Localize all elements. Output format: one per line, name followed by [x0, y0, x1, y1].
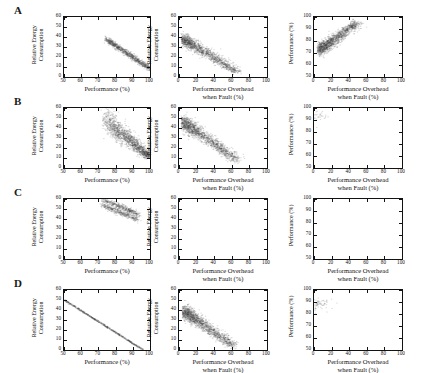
- y-tick-label: 10: [165, 63, 176, 68]
- y-tick-label: 20: [50, 53, 61, 58]
- y-tick-label: 60: [165, 104, 176, 109]
- y-axis-title-line: Relative Energy: [31, 196, 38, 258]
- x-tick-mark: [214, 108, 215, 111]
- y-tick-label: 10: [50, 245, 61, 250]
- x-tick-label: 40: [211, 169, 216, 174]
- y-tick-mark: [314, 108, 317, 109]
- y-tick-label: 40: [165, 215, 176, 220]
- y-tick-mark: [399, 29, 402, 30]
- y-tick-mark: [314, 247, 317, 248]
- x-tick-label: 60: [228, 351, 233, 356]
- y-tick-mark: [314, 338, 317, 339]
- x-tick-label: 70: [95, 351, 100, 356]
- x-tick-label: 60: [228, 169, 233, 174]
- y-tick-mark: [179, 310, 182, 311]
- x-tick-label: 20: [193, 260, 198, 265]
- y-tick-label: 50: [300, 346, 311, 351]
- y-tick-label: 90: [300, 298, 311, 303]
- y-axis-title: Relative EnergyConsumption: [31, 287, 45, 349]
- plot-panel-c2: 0204060801000102030405060Performance Ove…: [178, 198, 268, 260]
- y-tick-mark: [314, 41, 317, 42]
- row-label: D: [14, 277, 22, 289]
- y-axis-title-line: Performance (%): [288, 286, 295, 346]
- x-tick-label: 100: [262, 260, 270, 265]
- y-tick-mark: [64, 138, 67, 139]
- y-tick-mark: [64, 148, 67, 149]
- y-axis-title: Relative EnergyConsumption: [31, 105, 45, 167]
- y-tick-mark: [64, 239, 67, 240]
- y-tick-mark: [64, 67, 67, 68]
- y-tick-label: 60: [300, 243, 311, 248]
- y-tick-label: 60: [165, 195, 176, 200]
- plot-panel-a3: 0204060801005060708090100Performance Ove…: [313, 16, 403, 78]
- x-axis-title: Performance Overheadwhen Fault (%): [178, 358, 268, 373]
- y-tick-label: 60: [165, 13, 176, 18]
- scatter-points: [179, 17, 267, 77]
- x-tick-label: 100: [145, 78, 153, 83]
- x-tick-mark: [332, 108, 333, 111]
- x-axis-title: Performance (%): [63, 176, 151, 184]
- scatter-points: [64, 108, 150, 168]
- y-tick-mark: [399, 53, 402, 54]
- y-tick-mark: [264, 67, 267, 68]
- x-tick-mark: [349, 108, 350, 111]
- x-tick-mark: [402, 17, 403, 20]
- x-tick-mark: [116, 108, 117, 111]
- y-tick-mark: [314, 144, 317, 145]
- y-axis-title: Relative EnergyConsumption: [146, 287, 160, 349]
- y-axis-title-line: Consumption: [38, 14, 45, 76]
- y-tick-mark: [64, 219, 67, 220]
- x-tick-label: 0: [177, 78, 180, 83]
- y-tick-mark: [314, 156, 317, 157]
- x-tick-label: 0: [312, 169, 315, 174]
- y-tick-label: 50: [300, 164, 311, 169]
- x-tick-label: 70: [95, 169, 100, 174]
- x-tick-mark: [402, 108, 403, 111]
- x-tick-label: 40: [346, 78, 351, 83]
- x-axis-title-line: Performance Overhead: [178, 176, 268, 184]
- y-tick-mark: [399, 120, 402, 121]
- x-tick-label: 40: [211, 351, 216, 356]
- y-tick-label: 20: [50, 235, 61, 240]
- plot-panel-d3: 0204060801005060708090100Performance Ove…: [313, 289, 403, 351]
- plot-panel-b3: 0204060801005060708090100Performance Ove…: [313, 107, 403, 169]
- x-tick-mark: [332, 290, 333, 293]
- y-axis-title: Performance (%): [288, 195, 295, 255]
- x-tick-label: 80: [381, 169, 386, 174]
- x-tick-label: 80: [381, 78, 386, 83]
- x-tick-label: 40: [211, 78, 216, 83]
- y-tick-label: 100: [300, 195, 311, 200]
- x-tick-mark: [367, 108, 368, 111]
- y-tick-mark: [179, 128, 182, 129]
- y-axis-title-line: Relative Energy: [31, 287, 38, 349]
- x-tick-mark: [98, 199, 99, 202]
- x-tick-mark: [81, 290, 82, 293]
- x-tick-mark: [267, 199, 268, 202]
- y-tick-mark: [314, 211, 317, 212]
- y-tick-mark: [179, 320, 182, 321]
- plot-frame: [63, 198, 151, 260]
- y-tick-label: 30: [165, 134, 176, 139]
- y-tick-mark: [264, 340, 267, 341]
- x-tick-mark: [267, 108, 268, 111]
- y-tick-label: 30: [50, 316, 61, 321]
- y-axis-title: Performance (%): [288, 13, 295, 73]
- y-tick-label: 30: [50, 225, 61, 230]
- x-tick-label: 90: [129, 351, 134, 356]
- y-axis-title-line: Relative Energy: [146, 14, 153, 76]
- y-tick-mark: [179, 290, 182, 291]
- y-tick-label: 70: [300, 49, 311, 54]
- y-tick-mark: [179, 158, 182, 159]
- scatter-points: [314, 290, 402, 350]
- y-tick-mark: [264, 199, 267, 200]
- y-axis-title-line: Consumption: [38, 287, 45, 349]
- x-tick-mark: [116, 17, 117, 20]
- y-tick-mark: [179, 219, 182, 220]
- y-tick-label: 50: [165, 296, 176, 301]
- y-tick-mark: [64, 249, 67, 250]
- y-tick-mark: [264, 300, 267, 301]
- y-tick-mark: [264, 249, 267, 250]
- x-tick-label: 100: [145, 260, 153, 265]
- y-tick-label: 70: [300, 322, 311, 327]
- y-axis-title-line: Performance (%): [288, 13, 295, 73]
